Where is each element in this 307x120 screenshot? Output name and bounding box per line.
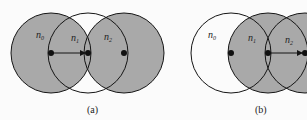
node-dot-a-n1 — [85, 50, 91, 56]
figure-b: n0 n1 n2 (b) — [191, 13, 307, 116]
figure-a: n0 n1 n2 (a) — [11, 13, 164, 116]
label-b-n0: n0 — [208, 29, 216, 41]
caption-b: (b) — [255, 104, 267, 116]
node-coverage-diagram: n0 n1 n2 (a) n0 n1 n2 (b) — [0, 0, 307, 120]
node-dot-b-n1 — [265, 50, 271, 56]
caption-a: (a) — [87, 104, 98, 116]
node-dot-a-n2 — [121, 50, 127, 56]
node-dot-b-n0 — [228, 50, 234, 56]
node-dot-a-n0 — [48, 50, 54, 56]
